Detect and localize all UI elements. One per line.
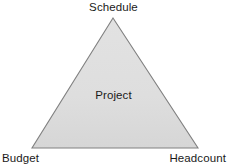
- triangle-shape: [0, 0, 227, 168]
- triangle-polygon: [32, 18, 198, 148]
- diagram-canvas: Schedule Project Budget Headcount: [0, 0, 227, 168]
- vertex-label-budget: Budget: [2, 152, 39, 165]
- vertex-label-headcount: Headcount: [169, 152, 226, 165]
- center-label-project: Project: [0, 89, 227, 102]
- vertex-label-schedule: Schedule: [0, 1, 227, 14]
